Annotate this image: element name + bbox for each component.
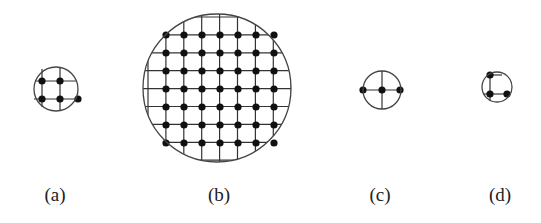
node-dot	[270, 121, 277, 128]
node-dot	[180, 121, 187, 128]
node-dot	[396, 86, 403, 93]
node-dot	[180, 139, 187, 146]
node-dot	[234, 121, 241, 128]
panel-b-circle-grid	[143, 14, 291, 162]
node-dot	[234, 31, 241, 38]
boundary-circle	[482, 72, 512, 102]
panel-a-circle-grid	[34, 67, 82, 111]
node-dot	[216, 49, 223, 56]
node-dot	[162, 85, 169, 92]
node-dot	[234, 67, 241, 74]
panel-label-b: (b)	[208, 184, 230, 206]
node-dot	[252, 85, 259, 92]
node-dot	[180, 49, 187, 56]
node-dot	[252, 121, 259, 128]
node-dot	[270, 139, 277, 146]
boundary-circle	[34, 67, 78, 111]
node-dot	[180, 85, 187, 92]
node-dot	[252, 31, 259, 38]
node-dot	[270, 67, 277, 74]
node-dot	[38, 95, 45, 102]
node-dot	[56, 77, 63, 84]
node-dot	[216, 31, 223, 38]
node-dot	[198, 103, 205, 110]
node-dot	[216, 67, 223, 74]
node-dot	[216, 139, 223, 146]
node-dot	[252, 67, 259, 74]
node-dot	[162, 103, 169, 110]
node-dot	[56, 95, 63, 102]
node-dot	[216, 121, 223, 128]
node-dot	[198, 31, 205, 38]
node-dot	[234, 49, 241, 56]
node-dot	[180, 31, 187, 38]
node-dot	[252, 139, 259, 146]
panel-label-a: (a)	[44, 184, 65, 206]
node-dot	[270, 103, 277, 110]
node-dot	[234, 103, 241, 110]
node-dot	[198, 121, 205, 128]
node-dot	[216, 85, 223, 92]
node-dot	[252, 103, 259, 110]
node-dot	[162, 49, 169, 56]
node-dot	[162, 121, 169, 128]
node-dot	[198, 85, 205, 92]
node-dot	[38, 77, 45, 84]
node-dot	[486, 90, 493, 97]
node-dot	[270, 85, 277, 92]
node-dot	[234, 85, 241, 92]
node-dot	[198, 139, 205, 146]
figure-canvas: (a) (b) (c) (d)	[0, 0, 541, 223]
panel-c-circle-grid	[359, 71, 403, 109]
node-dot	[162, 67, 169, 74]
node-dot	[378, 86, 385, 93]
panel-label-c: (c)	[369, 184, 390, 206]
node-dot	[180, 103, 187, 110]
node-dot	[180, 67, 187, 74]
panel-label-d: (d)	[489, 184, 511, 206]
node-dot	[503, 90, 510, 97]
node-dot	[216, 103, 223, 110]
node-dot	[270, 49, 277, 56]
panel-d-circle-grid	[482, 71, 512, 102]
node-dot	[198, 67, 205, 74]
node-dot	[234, 139, 241, 146]
node-dot	[162, 139, 169, 146]
node-dot	[252, 49, 259, 56]
node-dot	[198, 49, 205, 56]
